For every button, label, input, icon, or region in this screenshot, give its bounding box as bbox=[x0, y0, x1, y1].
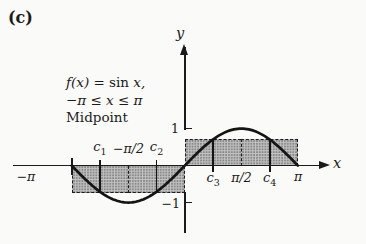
y-axis-label: y bbox=[176, 25, 184, 41]
annotation-var: x, bbox=[133, 74, 145, 90]
x-tick-label-neg-pi-over-2: −π/2 bbox=[111, 141, 146, 156]
x-tick-label-neg-pi: −π bbox=[12, 169, 40, 184]
x-tick-neg-pi bbox=[71, 158, 73, 175]
midpoint-line bbox=[212, 139, 214, 171]
x-axis-arrowhead-icon bbox=[319, 161, 330, 169]
y-tick-neg-1 bbox=[184, 202, 192, 203]
riemann-midpoint-figure: (c) f(x) = sin x, −π ≤ x ≤ π Midpoint x … bbox=[0, 0, 366, 244]
x-axis-label: x bbox=[333, 155, 341, 171]
midpoint-label: c2 bbox=[147, 140, 167, 159]
x-tick-label-pi: π bbox=[286, 169, 310, 184]
annotation-line-3: Midpoint bbox=[66, 109, 145, 127]
y-axis-arrowhead-icon bbox=[180, 44, 188, 55]
annotation-line-2: −π ≤ x ≤ π bbox=[66, 92, 145, 110]
annotation-line-1: f(x) = sin x, bbox=[66, 74, 145, 92]
x-tick-label-pi-over-2: π/2 bbox=[226, 170, 257, 185]
panel-label: (c) bbox=[8, 8, 33, 27]
midpoint-label: c4 bbox=[260, 171, 280, 190]
annotation-fx: f(x) = bbox=[66, 74, 109, 90]
y-tick-label-neg-1: −1 bbox=[154, 196, 180, 211]
plot-area: x y 1 −1 −π −π/2 π/2 π c1c2c3c4 bbox=[0, 0, 366, 244]
midpoint-line bbox=[269, 139, 271, 171]
y-axis-upper-segment bbox=[184, 47, 186, 130]
midpoint-label: c1 bbox=[90, 140, 110, 159]
y-tick-1 bbox=[184, 128, 192, 129]
x-axis bbox=[13, 165, 320, 167]
y-axis-lower-segment bbox=[184, 192, 186, 233]
annotation-sin: sin bbox=[109, 74, 133, 90]
function-annotation: f(x) = sin x, −π ≤ x ≤ π Midpoint bbox=[66, 74, 145, 127]
y-tick-label-1: 1 bbox=[164, 121, 179, 136]
midpoint-label: c3 bbox=[203, 171, 223, 190]
